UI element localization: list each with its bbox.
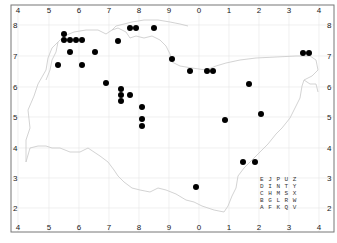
occurrence-dot bbox=[103, 80, 109, 86]
occurrence-dot bbox=[139, 116, 145, 122]
x-tick-label-bottom: 4 bbox=[16, 223, 21, 232]
x-tick-label-bottom: 4 bbox=[317, 223, 322, 232]
legend-row: A F K Q V bbox=[260, 204, 297, 211]
x-tick-label-top: 9 bbox=[167, 6, 172, 15]
occurrence-dot bbox=[92, 49, 98, 55]
occurrence-dot bbox=[252, 159, 258, 165]
occurrence-dot bbox=[118, 98, 124, 104]
occurrence-dot bbox=[115, 38, 121, 44]
x-tick-label-top: 5 bbox=[47, 6, 52, 15]
occurrence-dot bbox=[127, 25, 133, 31]
y-tick-label-left: 6 bbox=[13, 83, 18, 92]
y-tick-label-left: 4 bbox=[13, 144, 18, 153]
x-tick-label-top: 8 bbox=[137, 6, 142, 15]
y-tick-label-left: 5 bbox=[13, 113, 18, 122]
y-tick-label-right: 5 bbox=[327, 113, 332, 122]
x-tick-label-bottom: 8 bbox=[137, 223, 142, 232]
occurrence-dot bbox=[187, 68, 193, 74]
occurrence-dot bbox=[79, 37, 85, 43]
y-tick-label-left: 2 bbox=[13, 204, 18, 213]
y-tick-label-right: 3 bbox=[327, 174, 332, 183]
occurrence-dot bbox=[300, 50, 306, 56]
x-tick-label-top: 0 bbox=[197, 6, 202, 15]
occurrence-dot bbox=[127, 92, 133, 98]
legend-row: D I N T Y bbox=[260, 183, 297, 190]
occurrence-dot bbox=[73, 37, 79, 43]
occurrence-dot bbox=[139, 123, 145, 129]
legend-row: B G L R W bbox=[260, 197, 297, 204]
y-tick-label-left: 3 bbox=[13, 174, 18, 183]
legend-row: E J P U Z bbox=[260, 176, 297, 183]
x-tick-label-top: 6 bbox=[77, 6, 82, 15]
occurrence-dot bbox=[139, 104, 145, 110]
occurrence-dot bbox=[151, 25, 157, 31]
y-tick-label-left: 7 bbox=[13, 52, 18, 61]
x-tick-label-bottom: 1 bbox=[227, 223, 232, 232]
occurrence-dot bbox=[306, 50, 312, 56]
y-tick-label-right: 4 bbox=[327, 144, 332, 153]
occurrence-dot bbox=[193, 184, 199, 190]
occurrence-dot bbox=[169, 56, 175, 62]
x-tick-label-bottom: 0 bbox=[197, 223, 202, 232]
y-tick-label-left: 8 bbox=[13, 21, 18, 30]
x-tick-label-top: 1 bbox=[227, 6, 232, 15]
x-tick-label-top: 4 bbox=[16, 6, 21, 15]
x-tick-label-bottom: 7 bbox=[107, 223, 112, 232]
y-tick-label-right: 8 bbox=[327, 21, 332, 30]
occurrence-dot bbox=[79, 62, 85, 68]
occurrence-dot bbox=[240, 159, 246, 165]
x-tick-label-top: 7 bbox=[107, 6, 112, 15]
x-tick-label-top: 4 bbox=[317, 6, 322, 15]
occurrence-dot bbox=[67, 49, 73, 55]
occurrence-dot bbox=[246, 81, 252, 87]
occurrence-dot bbox=[118, 86, 124, 92]
y-tick-label-right: 2 bbox=[327, 204, 332, 213]
grid-square-legend: E J P U ZD I N T YC H M S XB G L R WA F … bbox=[260, 176, 297, 211]
occurrence-dot bbox=[67, 37, 73, 43]
y-tick-label-right: 6 bbox=[327, 83, 332, 92]
x-tick-label-bottom: 9 bbox=[167, 223, 172, 232]
occurrence-dot bbox=[55, 62, 61, 68]
x-tick-label-bottom: 3 bbox=[287, 223, 292, 232]
occurrence-dot bbox=[204, 68, 210, 74]
occurrence-dot bbox=[210, 68, 216, 74]
x-tick-label-top: 3 bbox=[287, 6, 292, 15]
x-tick-label-top: 2 bbox=[257, 6, 262, 15]
y-tick-label-right: 7 bbox=[327, 52, 332, 61]
x-tick-label-bottom: 2 bbox=[257, 223, 262, 232]
occurrence-dot bbox=[133, 25, 139, 31]
occurrence-dot bbox=[258, 111, 264, 117]
x-tick-label-bottom: 5 bbox=[47, 223, 52, 232]
distribution-map: 445566778899001122334488776655443322 E J… bbox=[0, 0, 337, 243]
x-tick-label-bottom: 6 bbox=[77, 223, 82, 232]
occurrence-dot bbox=[222, 117, 228, 123]
occurrence-dot bbox=[118, 92, 124, 98]
occurrence-dot bbox=[61, 31, 67, 37]
legend-row: C H M S X bbox=[260, 190, 297, 197]
occurrence-dot bbox=[61, 37, 67, 43]
